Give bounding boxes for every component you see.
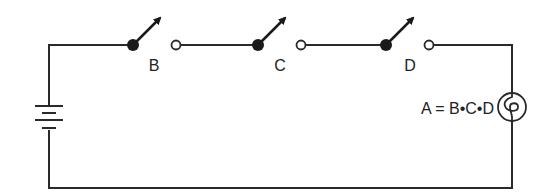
switch-blade-icon [386, 18, 413, 45]
switch-d[interactable]: D [380, 18, 434, 74]
equation-label: A = B•C•D [421, 100, 494, 117]
switch-terminal-icon [172, 41, 181, 50]
switch-terminal-icon [297, 41, 306, 50]
wire-d-lamp [433, 45, 512, 93]
switch-blade-icon [133, 18, 160, 45]
switch-c[interactable]: C [252, 18, 306, 74]
switch-label-b: B [149, 57, 160, 74]
switch-terminal-icon [425, 41, 434, 50]
circuit-diagram: B C D A = B•C•D [0, 0, 540, 193]
wire-bottom [49, 121, 512, 188]
battery-icon [35, 106, 63, 128]
lamp-icon [498, 93, 526, 121]
switch-blade-icon [258, 18, 285, 45]
switch-label-c: C [274, 57, 286, 74]
switch-b[interactable]: B [127, 18, 181, 74]
wire-left-top [49, 45, 133, 105]
switch-label-d: D [404, 57, 416, 74]
